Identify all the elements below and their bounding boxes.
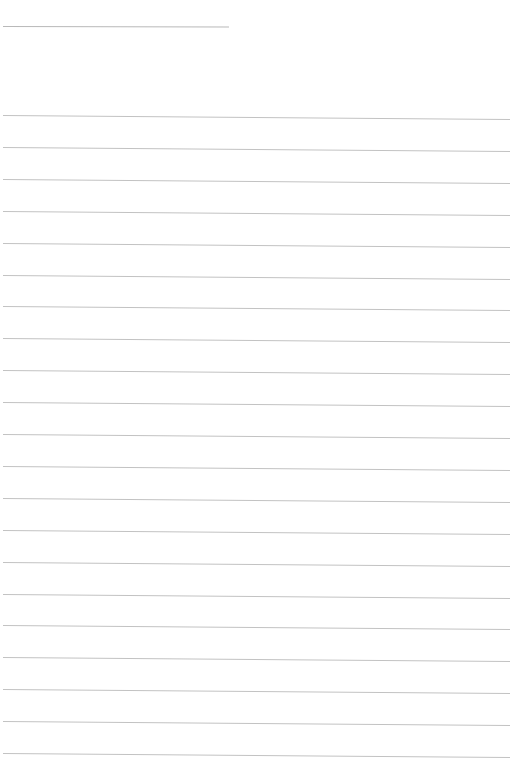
ruled-line: [3, 370, 510, 375]
header-name-line: [3, 26, 229, 27]
ruled-line: [3, 753, 510, 758]
ruled-line: [3, 147, 510, 152]
ruled-line: [3, 243, 510, 248]
ruled-line: [3, 211, 510, 216]
ruled-line: [3, 562, 510, 567]
ruled-line: [3, 306, 510, 311]
ruled-line: [3, 594, 510, 599]
ruled-line: [3, 466, 510, 471]
ruled-line: [3, 721, 510, 726]
ruled-line: [3, 434, 510, 439]
lined-paper-page: [0, 0, 517, 778]
ruled-line: [3, 338, 510, 343]
ruled-line: [3, 657, 510, 662]
ruled-line: [3, 115, 510, 120]
ruled-line: [3, 689, 510, 694]
ruled-line: [3, 179, 510, 184]
ruled-line: [3, 530, 510, 535]
ruled-line: [3, 275, 510, 280]
ruled-line: [3, 625, 510, 630]
ruled-line: [3, 402, 510, 407]
ruled-line: [3, 498, 510, 503]
